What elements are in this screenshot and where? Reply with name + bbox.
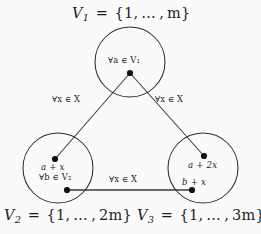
vertex-dot-left-lower — [64, 187, 70, 193]
annotation-edge-right: ∀x ∈ X — [155, 95, 183, 103]
set-caption-v3-equals: = — [159, 207, 175, 223]
set-caption-v1: V1 = {1, … , m} — [72, 6, 190, 23]
annotation-top-vertex: ∀a ∈ V₁ — [108, 56, 140, 64]
diagram-graphics — [0, 0, 261, 234]
set-caption-v1-set: {1, … , m} — [115, 5, 191, 21]
edge-right-line — [130, 73, 204, 156]
vertex-dot-right-upper — [201, 153, 207, 159]
edge-group — [55, 73, 204, 190]
annotation-edge-bottom: ∀x ∈ X — [109, 175, 137, 183]
vertex-label-right-circle-upper: a + 2x — [188, 161, 217, 170]
set-caption-v3: V3 = {1, … , 3m} — [137, 208, 261, 225]
set-caption-v2-set: {1, … , 2m} — [47, 207, 132, 223]
set-caption-v3-subscript: 3 — [148, 214, 154, 225]
set-caption-v2-name: V — [4, 207, 15, 223]
vertex-dot-top — [127, 70, 133, 76]
set-caption-v1-equals: = — [94, 5, 110, 21]
vertex-label-right-circle-lower: b + x — [182, 178, 206, 187]
set-caption-v2: V2 = {1, … , 2m} — [4, 208, 132, 225]
vertex-dot-right-lower — [189, 187, 195, 193]
vertex-label-left-circle: a + x — [41, 163, 65, 172]
set-caption-v3-set: {1, … , 3m} — [180, 207, 261, 223]
set-caption-v3-name: V — [137, 207, 148, 223]
set-caption-v1-subscript: 1 — [83, 12, 89, 23]
set-caption-v2-equals: = — [26, 207, 42, 223]
figure-canvas: V1 = {1, … , m} V2 = {1, … , 2m} V3 = {1… — [0, 0, 261, 234]
edge-left-line — [55, 73, 130, 159]
annotation-left-vertex: ∀b ∈ V₂ — [39, 173, 71, 181]
set-caption-v1-name: V — [72, 5, 83, 21]
set-caption-v2-subscript: 2 — [15, 214, 21, 225]
annotation-edge-left: ∀x ∈ X — [52, 95, 80, 103]
